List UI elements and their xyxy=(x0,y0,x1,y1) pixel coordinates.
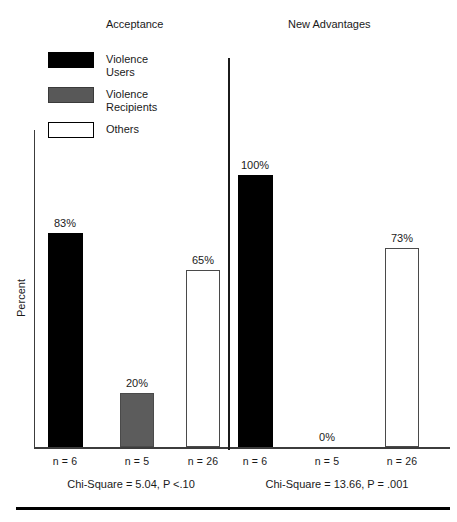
chi-square-annotation-acceptance: Chi-Square = 5.04, P <.10 xyxy=(67,478,195,490)
n-label-acceptance-violence-recipients: n = 5 xyxy=(125,455,150,467)
legend-label-violence-recipients: Violence Recipients xyxy=(106,87,157,113)
bar-acceptance-violence-users xyxy=(48,233,83,447)
legend-item-violence-recipients: Violence Recipients xyxy=(48,87,157,113)
legend-swatch-white-icon xyxy=(48,122,94,138)
panel-divider-line xyxy=(228,58,230,450)
bar-value-acceptance-others: 65% xyxy=(192,254,214,266)
legend-label-violence-users: Violence Users xyxy=(106,52,148,78)
bar-value-acceptance-violence-recipients: 20% xyxy=(126,377,148,389)
bar-value-acceptance-violence-users: 83% xyxy=(54,217,76,229)
bar-new-advantages-others xyxy=(385,248,419,447)
bar-chart-figure: Acceptance New Advantages Violence Users… xyxy=(0,0,457,522)
bar-value-new-advantages-violence-users: 100% xyxy=(241,159,269,171)
bar-acceptance-others xyxy=(186,270,220,447)
bar-acceptance-violence-recipients xyxy=(120,393,154,447)
n-label-acceptance-violence-users: n = 6 xyxy=(53,455,78,467)
bottom-horizontal-rule xyxy=(16,507,450,510)
panel-title-new-advantages: New Advantages xyxy=(288,18,371,30)
legend-label-others: Others xyxy=(106,122,139,136)
bar-new-advantages-violence-users xyxy=(238,175,273,447)
n-label-new-advantages-violence-users: n = 6 xyxy=(243,455,268,467)
n-label-acceptance-others: n = 26 xyxy=(188,455,219,467)
bar-value-new-advantages-violence-recipients: 0% xyxy=(319,431,335,443)
legend-item-others: Others xyxy=(48,122,157,138)
n-label-new-advantages-violence-recipients: n = 5 xyxy=(315,455,340,467)
x-axis-line xyxy=(34,447,450,449)
n-label-new-advantages-others: n = 26 xyxy=(387,455,418,467)
chi-square-annotation-new-advantages: Chi-Square = 13.66, P = .001 xyxy=(266,478,409,490)
legend-swatch-black-icon xyxy=(48,52,94,68)
legend: Violence Users Violence Recipients Other… xyxy=(48,52,157,138)
legend-swatch-gray-icon xyxy=(48,87,94,103)
y-axis-line xyxy=(34,130,35,447)
panel-title-acceptance: Acceptance xyxy=(106,18,163,30)
bar-value-new-advantages-others: 73% xyxy=(391,232,413,244)
legend-item-violence-users: Violence Users xyxy=(48,52,157,78)
y-axis-label: Percent xyxy=(15,268,27,328)
